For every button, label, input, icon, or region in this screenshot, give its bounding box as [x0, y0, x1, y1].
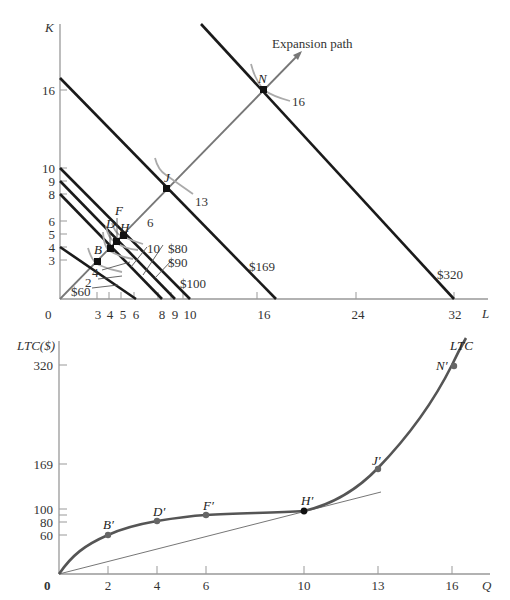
l-tick-24: 24	[352, 307, 366, 322]
isocost-label-80: $80	[168, 241, 188, 256]
bottom-origin-label: 0	[44, 578, 51, 593]
label-n-prime: N′	[435, 358, 448, 373]
l-tick-8: 8	[159, 307, 166, 322]
l-tick-16: 16	[258, 307, 272, 322]
ltc-curve-label: LTC	[449, 338, 473, 353]
isoquant-label-6: 6	[147, 215, 154, 230]
l-tick-32: 32	[449, 307, 462, 322]
l-axis-label: L	[481, 306, 489, 321]
isocost-label-90: $90	[168, 255, 188, 270]
point-f	[113, 238, 120, 245]
l-tick-4: 4	[107, 307, 114, 322]
l-tick-5: 5	[120, 307, 127, 322]
label-h-prime: H′	[300, 493, 313, 508]
l-tick-9: 9	[172, 307, 179, 322]
q-tick-10: 10	[298, 578, 311, 593]
q-tick-2: 2	[105, 578, 112, 593]
point-n	[260, 86, 267, 93]
l-tick-10: 10	[184, 307, 197, 322]
l-tick-3: 3	[95, 307, 102, 322]
point-h-prime	[301, 508, 308, 515]
label-b: B	[94, 242, 102, 257]
origin-label: 0	[45, 307, 52, 322]
k-tick-8: 8	[49, 187, 56, 202]
label-n: N	[257, 71, 268, 86]
expansion-path-label: Expansion path	[272, 36, 353, 51]
label-d: D	[105, 216, 116, 231]
point-n-prime	[451, 363, 457, 369]
point-b-prime	[105, 532, 111, 538]
q-tick-13: 13	[372, 578, 385, 593]
k-axis-label: K	[44, 20, 55, 35]
top-chart: K L 0 16 10 9 8 6 5 4 3	[42, 20, 489, 322]
isocost-label-60: $60	[71, 284, 91, 299]
isocost-label-320: $320	[437, 267, 463, 282]
q-tick-6: 6	[203, 578, 210, 593]
isoquant-label-10: 10	[147, 241, 160, 256]
label-j-prime: J′	[372, 453, 381, 468]
ltc-axis-label: LTC($)	[16, 338, 55, 353]
label-d-prime: D′	[152, 504, 165, 519]
label-f: F	[114, 203, 124, 218]
point-j	[163, 185, 170, 192]
k-tick-16: 16	[42, 83, 56, 98]
q-tick-4: 4	[154, 578, 161, 593]
isoquant-label-13: 13	[195, 194, 208, 209]
isoquant-label-4: 4	[92, 265, 99, 280]
label-b-prime: B′	[103, 517, 114, 532]
label-f-prime: F′	[202, 498, 214, 513]
isocost-label-100: $100	[180, 276, 206, 291]
ltc-tick-60: 60	[40, 528, 53, 543]
figure-canvas: K L 0 16 10 9 8 6 5 4 3	[0, 0, 510, 600]
bottom-chart: LTC($) Q 0 320 169 100 80 60	[16, 338, 492, 593]
ltc-axis-ticks	[59, 365, 67, 535]
label-h: H	[119, 220, 130, 235]
q-tick-16: 16	[446, 578, 460, 593]
point-b	[94, 258, 101, 265]
k-tick-3: 3	[49, 253, 56, 268]
ltc-tick-320: 320	[34, 358, 54, 373]
q-axis-ticks	[108, 566, 452, 574]
isoquant-13	[155, 158, 193, 194]
ltc-tick-169: 169	[34, 457, 54, 472]
isocost-label-169: $169	[249, 259, 275, 274]
isoquant-label-16: 16	[292, 94, 306, 109]
ltc-curve	[59, 338, 466, 574]
isocost-320	[201, 24, 454, 299]
l-tick-6: 6	[133, 307, 140, 322]
isocost-lines	[60, 24, 454, 299]
q-axis-label: Q	[482, 578, 492, 593]
point-d	[107, 245, 114, 252]
